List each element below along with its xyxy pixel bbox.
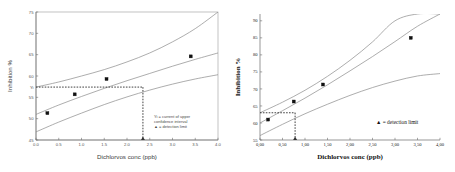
y-axis-title: Inhibition %	[6, 60, 13, 92]
x-tick-label: 4,00	[436, 142, 445, 148]
data-point	[105, 77, 108, 80]
data-point	[46, 112, 49, 115]
y-tick-label: 75	[253, 69, 258, 74]
x-tick-label: 0.0	[33, 142, 39, 147]
x-tick-label: 1,00	[301, 142, 310, 148]
chart-panel-right: 55606570758085900,000,501,001,502,002,50…	[228, 0, 455, 172]
legend-entry: ▲ = detection limit	[376, 119, 419, 125]
y-tick-label: 65	[253, 104, 258, 109]
yi-tick-label: Yi	[30, 85, 34, 90]
y-tick-label: 75	[29, 10, 34, 15]
x-tick-label: 0,00	[256, 142, 265, 148]
x-tick-label: 3,00	[391, 142, 400, 148]
data-point	[267, 118, 270, 121]
detection-limit-triangle-icon	[141, 137, 145, 140]
curves-group	[260, 13, 440, 135]
x-tick-label: 2,50	[368, 142, 377, 148]
x-axis-title: Dichlorvos conc (ppb)	[317, 153, 383, 161]
y-tick-label: 55	[29, 95, 34, 100]
x-tick-label: 3.5	[192, 142, 198, 147]
x-tick-label: 0,50	[278, 142, 287, 148]
chart-panel-left: 455055606570750.00.51.01.52.02.53.03.54.…	[0, 0, 228, 172]
right-plot-area: 55606570758085900,000,501,001,502,002,50…	[234, 13, 445, 160]
x-tick-label: 2,00	[346, 142, 355, 148]
x-tick-label: 4.0	[215, 142, 221, 147]
left-plot-area: 455055606570750.00.51.01.52.02.53.03.54.…	[6, 10, 222, 160]
y-tick-label: 80	[253, 52, 258, 57]
x-tick-label: 0.5	[56, 142, 62, 147]
left-chart-svg: 455055606570750.00.51.01.52.02.53.03.54.…	[0, 0, 228, 172]
y-tick-label: 50	[29, 116, 34, 121]
y-axis-title: Inhibition %	[234, 58, 242, 97]
curve-fitted-regression-line	[260, 14, 440, 123]
y-tick-label: 70	[253, 87, 258, 92]
x-tick-label: 1.5	[101, 142, 107, 147]
x-tick-label: 3.0	[170, 142, 176, 147]
x-tick-label: 2.5	[147, 142, 153, 147]
y-tick-label: 60	[253, 121, 258, 126]
curve-upper-confidence-interval	[36, 12, 218, 87]
y-tick-label: 65	[29, 52, 34, 57]
data-point	[292, 100, 295, 103]
curve-upper-confidence-interval	[260, 13, 440, 112]
curve-lower-confidence-interval	[260, 74, 440, 136]
x-tick-label: 1,50	[323, 142, 332, 148]
legend-entry: ▲ = detection limit	[154, 124, 188, 129]
figure-container: 455055606570750.00.51.01.52.02.53.03.54.…	[0, 0, 455, 172]
y-tick-label: 90	[253, 18, 258, 23]
data-point	[322, 83, 325, 86]
detection-limit-triangle-icon	[293, 137, 297, 140]
y-tick-label: 60	[29, 74, 34, 79]
data-point	[409, 36, 412, 39]
x-tick-label: 3,50	[413, 142, 422, 148]
data-point	[73, 93, 76, 96]
curves-group	[36, 12, 218, 132]
right-chart-svg: 55606570758085900,000,501,001,502,002,50…	[228, 0, 455, 172]
x-tick-label: 2.0	[124, 142, 130, 147]
x-axis-title: Dichlorvos conc (ppb)	[97, 153, 157, 160]
y-tick-label: 70	[29, 31, 34, 36]
y-tick-label: 85	[253, 35, 258, 40]
x-tick-label: 1.0	[79, 142, 85, 147]
data-point	[189, 55, 192, 58]
